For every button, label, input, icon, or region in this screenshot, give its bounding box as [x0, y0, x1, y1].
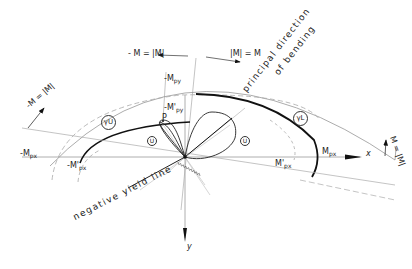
label-minus-Mpx: -Mpx: [20, 150, 37, 159]
diagram-graphics: [0, 0, 412, 269]
yield-curve-gamma-L: [196, 94, 318, 177]
label-U-right: U: [240, 136, 250, 146]
label-minus-Mpy: -Mpy: [164, 75, 181, 84]
label-U-left: U: [147, 136, 157, 146]
x-axis-arrow-icon: [345, 155, 362, 160]
label-minus-Mpx-prime: -M'px: [67, 162, 86, 171]
label-minus-M-abs-top: - M = |M|: [128, 50, 164, 58]
label-Mpx: Mpx: [322, 148, 336, 157]
outer-moment-arc: [50, 91, 395, 166]
lobe-left: [159, 122, 185, 157]
x-axis-label: x: [366, 150, 371, 158]
yield-diagram: - M = |M| |M| = M -Mpy -M'py P -Mpx -M'p…: [0, 0, 412, 269]
label-gamma-L: γL: [293, 111, 308, 126]
label-minus-Mpy-prime: -M'py: [164, 104, 183, 113]
label-Mpx-prime: M'px: [275, 160, 291, 169]
y-axis-label: y: [187, 243, 192, 251]
y-axis-arrow-icon: [183, 228, 187, 242]
label-abs-M-eq-M: |M| = M: [230, 50, 261, 58]
label-gamma-U: γU: [101, 115, 116, 130]
origin-point: [183, 155, 187, 159]
label-point-P: P: [162, 114, 167, 122]
